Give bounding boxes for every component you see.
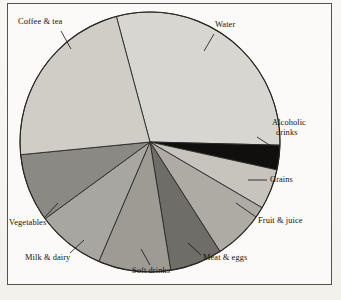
slice-label-alcoholic-1: Alcoholic [272,118,306,128]
slice-label-grains: Grains [270,175,293,185]
slice-label-alcoholic-2: drinks [276,128,298,138]
slice-label-fruit-juice: Fruit & juice [258,216,303,226]
pie-slices [20,12,280,272]
pie-chart [8,4,331,284]
slice-label-vegetables: Vegetables [9,218,46,228]
slice-label-water: Water [215,20,235,30]
slice-label-soft-drinks: Soft drinks [132,266,170,276]
slice-label-coffee-tea: Coffee & tea [18,17,62,27]
slice-label-meat-eggs: Meat & eggs [203,253,247,263]
slice-label-milk-dairy: Milk & dairy [25,253,70,263]
figure-frame: Water Coffee & tea Alcoholic drinks Grai… [7,3,332,285]
